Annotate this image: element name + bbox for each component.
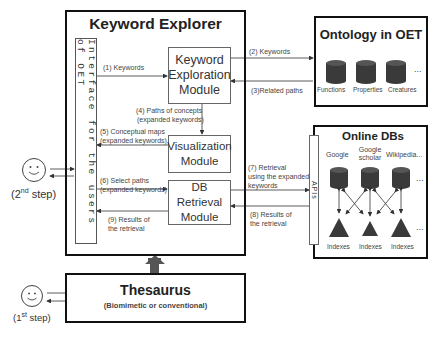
- flow-5-label-b: (expanded keywords): [100, 136, 167, 145]
- flow-7-label-b: using the expanded: [248, 172, 309, 181]
- first-step-label: (1st step): [13, 311, 51, 323]
- online-dbs-more-bottom: ...: [416, 222, 424, 232]
- thesaurus-subtitle: (Biomimetic or conventional): [65, 301, 246, 310]
- index-label-2: Indexes: [359, 243, 382, 250]
- flow-9-label-b: the retrieval: [108, 224, 145, 233]
- ontology-more: ...: [414, 64, 422, 74]
- online-dbs-title: Online DBs: [318, 130, 428, 142]
- ontology-db-creatures-label: Creatures: [388, 86, 417, 93]
- online-db-wikipedia-label: Wikipedia...: [386, 151, 422, 158]
- ontology-db-properties-label: Properties: [353, 86, 383, 93]
- thesaurus-box[interactable]: [65, 273, 246, 323]
- interface-label: Interface for the users of OET: [75, 39, 97, 243]
- user-smiley-icon-first-step: [20, 284, 44, 308]
- online-db-google-scholar-label: Google scholar: [357, 146, 383, 162]
- visualization-module-label: Visualization Module: [167, 139, 231, 169]
- online-dbs-more-top: ...: [416, 173, 424, 183]
- thesaurus-title: Thesaurus: [65, 282, 246, 298]
- flow-8-label-a: (8) Results of: [250, 210, 292, 219]
- user-interface-panel[interactable]: Interface for the users of OET: [75, 38, 97, 244]
- apis-panel[interactable]: APIs: [309, 135, 319, 245]
- flow-6-label-a: (6) Select paths: [100, 176, 149, 185]
- flow-6-label-b: (expanded keywords): [100, 185, 167, 194]
- flow-7-label-a: (7) Retrieval: [248, 163, 286, 172]
- flow-4-label-b: (expanded keywords): [137, 115, 204, 124]
- flow-1-label: (1) Keywords: [103, 63, 144, 72]
- keyword-exploration-module[interactable]: Keyword Exploration Module: [168, 47, 231, 104]
- visualization-module[interactable]: Visualization Module: [168, 135, 231, 173]
- flow-3-label: (3)Related paths: [251, 86, 303, 95]
- flow-7-label-c: keywords: [248, 181, 278, 190]
- apis-label: APIs: [311, 181, 318, 200]
- flow-5-label-a: (5) Conceptual maps: [100, 127, 165, 136]
- db-retrieval-module[interactable]: DB Retrieval Module: [168, 180, 231, 225]
- flow-4-label-a: (4) Paths of concepts: [136, 106, 202, 115]
- user-smiley-icon-second-step: [21, 157, 47, 183]
- keyword-exploration-module-label: Keyword Exploration Module: [168, 53, 231, 98]
- second-step-label: (2nd step): [11, 187, 56, 200]
- index-label-3: Indexes: [391, 243, 414, 250]
- db-retrieval-module-label: DB Retrieval Module: [169, 180, 230, 225]
- flow-8-label-b: the retrieval: [250, 219, 287, 228]
- keyword-explorer-title: Keyword Explorer: [65, 15, 246, 33]
- online-db-google-label: Google: [326, 151, 349, 158]
- flow-2-label: (2) Keywords: [249, 47, 290, 56]
- ontology-title: Ontology in OET: [314, 27, 428, 42]
- index-label-1: Indexes: [327, 243, 350, 250]
- ontology-db-functions-label: Functions: [317, 86, 345, 93]
- flow-9-label-a: (9) Results of: [108, 215, 150, 224]
